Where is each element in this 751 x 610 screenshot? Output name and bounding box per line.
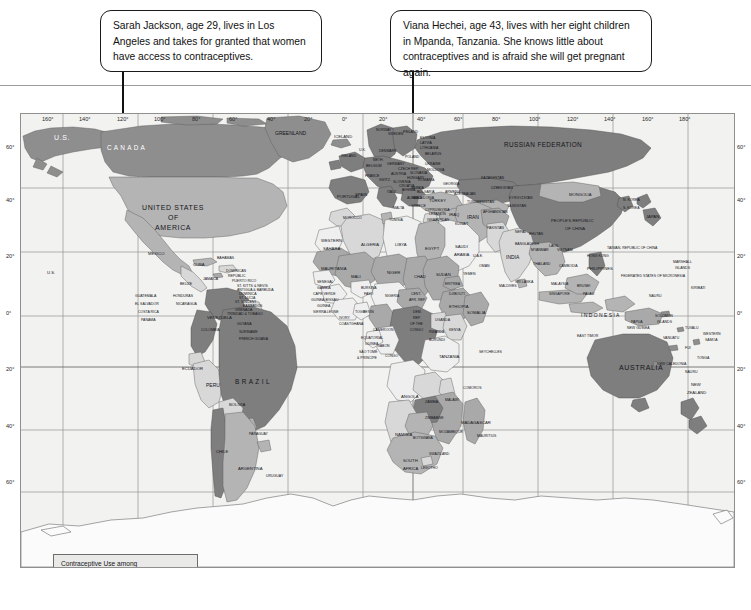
lon-tick-label: 160°	[642, 116, 654, 122]
lat-tick-label-left: 60°	[6, 144, 14, 150]
world-map-graphic	[21, 114, 734, 567]
legend-title-line1: Contraceptive Use among	[61, 560, 137, 567]
lat-tick-label-right: 20°	[737, 253, 745, 259]
lon-tick-label: 80°	[492, 116, 500, 122]
lon-tick-label: 140°	[79, 116, 91, 122]
lon-tick-label: 20°	[379, 116, 387, 122]
lon-tick-label: 160°	[42, 116, 54, 122]
lat-tick-label-right: 40°	[737, 423, 745, 429]
lon-tick-label: 60°	[229, 116, 237, 122]
lat-tick-label-right: 60°	[737, 479, 745, 485]
lon-tick-label: 180°	[679, 116, 691, 122]
legend-title: Contraceptive Use among Married Women	[61, 560, 191, 568]
lon-tick-label: 40°	[417, 116, 425, 122]
lat-tick-label-right: 40°	[737, 197, 745, 203]
lon-tick-label: 20°	[304, 116, 312, 122]
lat-tick-label-right: 20°	[737, 366, 745, 372]
map-page: Sarah Jackson, age 29, lives in Los Ange…	[0, 0, 751, 610]
lat-tick-label-right: 60°	[737, 144, 745, 150]
lon-tick-label: 80°	[192, 116, 200, 122]
lat-tick-label-left: 40°	[6, 423, 14, 429]
lon-tick-label: 140°	[604, 116, 616, 122]
lon-tick-label: 0°	[342, 116, 347, 122]
callout-sarah-jackson[interactable]: Sarah Jackson, age 29, lives in Los Ange…	[100, 10, 322, 72]
lat-tick-label-left: 0°	[6, 310, 11, 316]
lat-tick-label-left: 20°	[6, 366, 14, 372]
lat-tick-label-left: 20°	[6, 253, 14, 259]
lon-tick-label: 120°	[117, 116, 129, 122]
lon-tick-label: 100°	[529, 116, 541, 122]
world-map[interactable]: U.S.C A N A D AGREENLANDICELANDUNITED ST…	[20, 113, 735, 568]
lat-tick-label-right: 0°	[737, 310, 742, 316]
map-legend[interactable]: Contraceptive Use among Married Women 70…	[53, 554, 198, 568]
lon-tick-label: 60°	[454, 116, 462, 122]
header-divider	[0, 85, 751, 86]
lat-tick-label-left: 40°	[6, 197, 14, 203]
lon-tick-label: 40°	[267, 116, 275, 122]
lon-tick-label: 100°	[154, 116, 166, 122]
lat-tick-label-left: 60°	[6, 479, 14, 485]
callout-viana-hechei[interactable]: Viana Hechei, age 43, lives with her eig…	[390, 10, 652, 72]
lon-tick-label: 120°	[567, 116, 579, 122]
